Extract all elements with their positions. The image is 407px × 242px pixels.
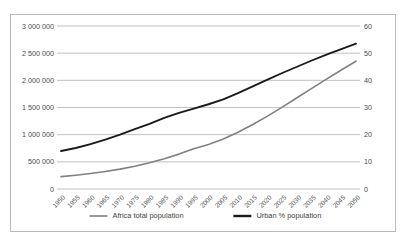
x-axis-tick-labels: 1950195519601965197019751980198519901995…	[51, 194, 362, 210]
right-axis-tick-label: 40	[364, 76, 372, 85]
chart-canvas: 0500 0001 000 0001 500 0002 000 0002 500…	[11, 15, 395, 231]
x-axis-tick-label: 2035	[302, 194, 318, 210]
chart-series-group	[61, 44, 356, 177]
legend-label-urban-population: Urban % population	[256, 211, 321, 220]
x-axis-tick-label: 1960	[80, 194, 96, 210]
x-axis-tick-label: 2000	[198, 194, 214, 210]
x-axis-tick-label: 2025	[272, 194, 288, 210]
left-axis-tick-label: 2 000 000	[22, 76, 54, 85]
x-axis-tick-label: 2040	[316, 194, 332, 210]
right-axis-tick-label: 0	[364, 185, 368, 194]
gridlines-group	[57, 26, 360, 189]
x-axis-tick-label: 2050	[346, 194, 362, 210]
chart-plot-frame: 0500 0001 000 0001 500 0002 000 0002 500…	[10, 14, 396, 232]
x-axis-tick-label: 1955	[66, 194, 82, 210]
x-axis-tick-label: 2005	[213, 194, 229, 210]
x-axis-tick-label: 2010	[228, 194, 244, 210]
left-axis-tick-label: 3 000 000	[22, 22, 54, 31]
x-axis-tick-label: 1970	[110, 194, 126, 210]
right-axis-tick-label: 30	[364, 103, 372, 112]
x-axis-tick-label: 1980	[139, 194, 155, 210]
x-axis-tick-label: 1985	[154, 194, 170, 210]
x-axis-tick-label: 1950	[51, 194, 67, 210]
x-axis-tick-label: 2015	[243, 194, 259, 210]
right-axis-tick-labels: 0102030405060	[364, 22, 372, 194]
x-axis-tick-label: 2030	[287, 194, 303, 210]
right-axis-tick-label: 50	[364, 49, 372, 58]
chart-legend: Africa total populationUrban % populatio…	[90, 211, 322, 220]
left-axis-tick-label: 1 000 000	[22, 130, 54, 139]
series-line-africa-total-population	[61, 61, 356, 176]
right-axis-tick-label: 10	[364, 157, 372, 166]
legend-label-africa-total-population: Africa total population	[113, 211, 184, 220]
right-axis-tick-label: 20	[364, 130, 372, 139]
left-axis-tick-label: 500 000	[28, 157, 54, 166]
left-axis-tick-label: 0	[50, 185, 54, 194]
x-axis-tick-label: 1990	[169, 194, 185, 210]
left-axis-tick-label: 2 500 000	[22, 49, 54, 58]
chart-figure: 0500 0001 000 0001 500 0002 000 0002 500…	[0, 0, 407, 242]
x-axis-tick-label: 1995	[184, 194, 200, 210]
right-axis-tick-label: 60	[364, 22, 372, 31]
x-axis-tick-label: 1965	[95, 194, 111, 210]
x-axis-tick-label: 2045	[331, 194, 347, 210]
left-axis-tick-labels: 0500 0001 000 0001 500 0002 000 0002 500…	[22, 22, 54, 194]
x-axis-tick-label: 1975	[125, 194, 141, 210]
x-axis-tick-label: 2020	[257, 194, 273, 210]
left-axis-tick-label: 1 500 000	[22, 103, 54, 112]
